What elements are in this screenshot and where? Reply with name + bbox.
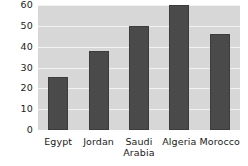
bar[interactable] (129, 26, 149, 130)
x-axis-tick-label: Morocco (200, 133, 240, 166)
y-axis-tick-label: 30 (21, 63, 34, 73)
x-axis-tick-label: Algeria (159, 133, 199, 166)
bars-layer (38, 5, 240, 130)
y-axis-tick-label: 20 (21, 84, 34, 94)
y-axis-tick-label: 10 (21, 104, 34, 114)
bar-slot (159, 5, 199, 130)
y-axis-tick-label: 50 (21, 21, 34, 31)
x-axis-tick-label: Egypt (38, 133, 78, 166)
bar-slot (119, 5, 159, 130)
plot-area (38, 5, 240, 130)
x-axis-tick-label: Jordan (78, 133, 118, 166)
bar-chart: 60 50 40 30 20 10 0 (0, 0, 248, 166)
y-axis-tick-label: 60 (21, 0, 34, 10)
bar-slot (200, 5, 240, 130)
bar[interactable] (48, 77, 68, 130)
bar[interactable] (210, 34, 230, 130)
y-axis-tick-label: 40 (21, 42, 34, 52)
y-axis: 60 50 40 30 20 10 0 (0, 0, 36, 132)
bar-slot (38, 5, 78, 130)
x-axis: Egypt Jordan Saudi Arabia Algeria Morocc… (38, 133, 240, 166)
bar[interactable] (169, 5, 189, 130)
bar-slot (78, 5, 118, 130)
y-axis-tick-label: 0 (27, 125, 33, 135)
bar[interactable] (89, 51, 109, 130)
x-axis-tick-label: Saudi Arabia (119, 133, 159, 166)
